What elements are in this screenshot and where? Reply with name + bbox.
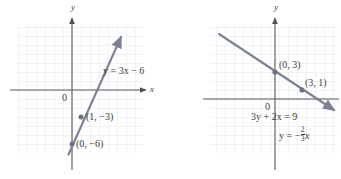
figure-root: y x 0 y = 3x − 6 (1, −3) (0, −6) bbox=[0, 0, 341, 179]
x-axis-label-left: x bbox=[150, 85, 154, 94]
grid-background-right bbox=[211, 27, 337, 153]
point-label-1-neg3: (1, −3) bbox=[86, 112, 113, 122]
equation-right-prefix: y = − bbox=[279, 130, 300, 141]
data-point-0-3 bbox=[272, 69, 277, 74]
point-label-0-neg6: (0, −6) bbox=[76, 139, 103, 149]
equation-label-right-standard: 3y + 2x = 9 bbox=[251, 112, 297, 122]
fraction-two-thirds: 23 bbox=[301, 126, 305, 143]
fraction-numerator: 2 bbox=[301, 126, 305, 134]
coordinate-plane-left bbox=[0, 0, 170, 179]
equation-right-suffix: x bbox=[305, 130, 309, 141]
equation-label-right-slope-intercept: y = −23x bbox=[279, 126, 309, 143]
fraction-denominator: 3 bbox=[301, 134, 305, 143]
y-axis-label-left: y bbox=[71, 3, 75, 12]
equation-label-left: y = 3x − 6 bbox=[103, 66, 144, 76]
origin-label-left: 0 bbox=[62, 93, 67, 103]
y-axis-label-right: y bbox=[274, 3, 278, 12]
graph-panel-right: y 0 (0, 3) (3, 1) 3y + 2x = 9 y = −23x bbox=[171, 0, 341, 179]
graph-panel-left: y x 0 y = 3x − 6 (1, −3) (0, −6) bbox=[0, 0, 170, 179]
point-label-0-3: (0, 3) bbox=[279, 60, 301, 70]
data-point-0-neg6 bbox=[70, 142, 75, 147]
coordinate-plane-right bbox=[171, 0, 341, 179]
data-point-1-neg3 bbox=[79, 115, 84, 120]
data-point-3-1 bbox=[299, 87, 304, 92]
point-label-3-1: (3, 1) bbox=[305, 78, 327, 88]
